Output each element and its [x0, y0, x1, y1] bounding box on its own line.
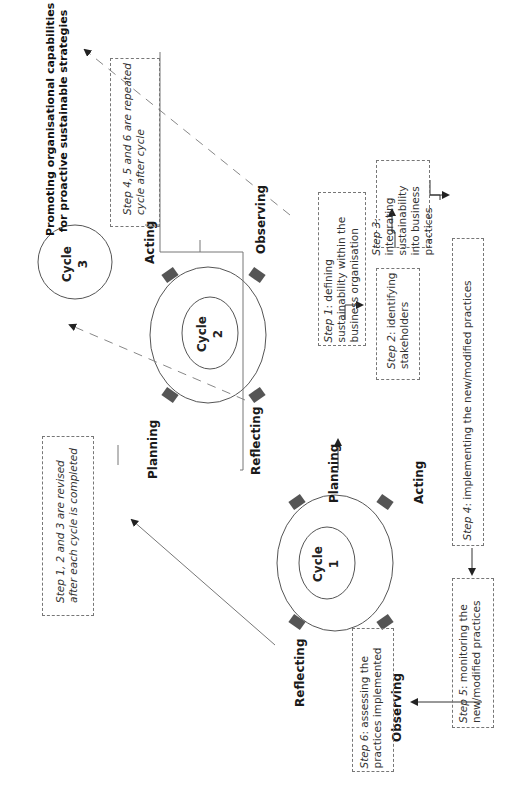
title-line-1: Promoting organisational capabilities: [44, 6, 57, 236]
cycle-1-reflecting-label: Reflecting: [293, 635, 307, 707]
note-revised-text: Step 1, 2 and 3 are revised after each c…: [54, 433, 80, 603]
cycle-1-planning-label: Planning: [327, 443, 341, 503]
step-2-text: Step 2: identifying stakeholders: [385, 269, 411, 369]
diagram-title: Promoting organisational capabilities fo…: [44, 6, 70, 236]
cycle-3-text: Cycle: [59, 244, 75, 284]
cycle-2-text: Cycle: [194, 314, 210, 354]
step-1-text: Step 1: defining sustainability within t…: [322, 193, 361, 343]
cycle-1-acting-label: Acting: [412, 454, 426, 504]
step-6-text: Step 6: assessing the practices implemen…: [358, 634, 384, 769]
diagram-lines: [0, 0, 525, 792]
cycle-1-number: 1: [326, 544, 342, 584]
step-5-text: Step 5: monitoring the new/modified prac…: [457, 583, 483, 723]
title-line-2: for proactive sustainable strategies: [57, 6, 70, 236]
cycle-3-number: 3: [75, 244, 91, 284]
cycle-2-reflecting-label: Reflecting: [249, 403, 263, 475]
cycle-2-planning-label: Planning: [146, 419, 160, 479]
cycle-1-label: Cycle 1: [310, 544, 342, 584]
cycle-1-text: Cycle: [310, 544, 326, 584]
cycle-3-label: Cycle 3: [59, 244, 91, 284]
step-4-text: Step 4: implementing the new/modified pr…: [461, 241, 474, 541]
step-3-text: Step 3: integrating sustainability into …: [370, 166, 435, 256]
note-repeated-text: Step 4, 5 and 6 are repeated cycle after…: [121, 55, 147, 215]
cycle-2-number: 2: [210, 314, 226, 354]
cycle-2-label: Cycle 2: [194, 314, 226, 354]
cycle-2-observing-label: Observing: [254, 184, 268, 254]
action-research-diagram: Promoting organisational capabilities fo…: [0, 0, 525, 792]
